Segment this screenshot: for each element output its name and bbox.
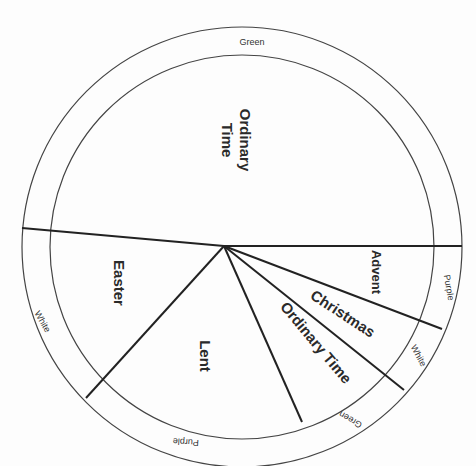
divider-ordinary-lent <box>224 246 302 422</box>
lent-label: Lent <box>197 340 214 372</box>
ordinary-time-top-label: Ordinary Time <box>219 109 254 172</box>
svg-text:Ordinary: Ordinary <box>237 109 254 172</box>
easter-label: Easter <box>111 260 128 306</box>
color-label-green-lower: Green <box>337 409 364 430</box>
color-label-green-top: Green <box>239 37 264 47</box>
divider-ordinary-easter <box>22 228 224 246</box>
advent-label: Advent <box>369 250 384 295</box>
color-label-purple-lent: Purple <box>172 436 199 448</box>
color-label-purple-advent: Purple <box>442 274 456 301</box>
season-dividers <box>22 228 462 422</box>
divider-lent-easter <box>86 246 224 398</box>
color-label-white-christmas: White <box>409 343 429 368</box>
liturgical-wheel: Ordinary Time Advent Christmas Ordinary … <box>0 0 476 466</box>
svg-text:Time: Time <box>219 123 236 158</box>
